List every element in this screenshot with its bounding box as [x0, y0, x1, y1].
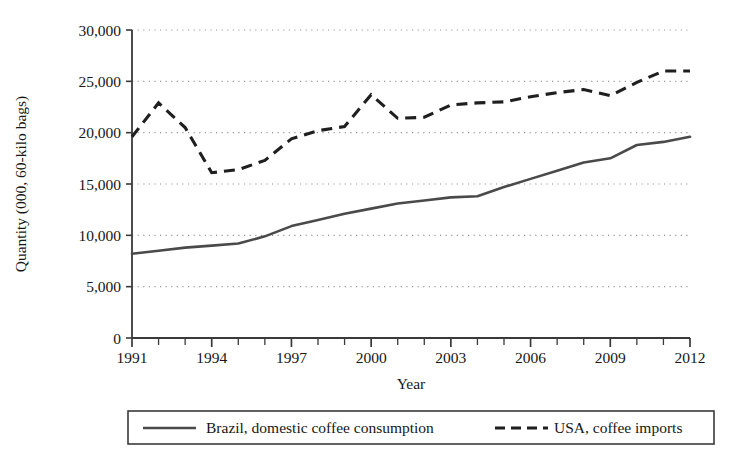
y-tick-label-5000: 5,000 [86, 278, 121, 295]
y-tick-label-0: 0 [113, 330, 121, 347]
x-tick-label-1997: 1997 [276, 349, 307, 366]
legend: Brazil, domestic coffee consumption USA,… [128, 411, 714, 444]
chart-canvas: 05,00010,00015,00020,00025,00030,000 199… [0, 0, 742, 460]
y-axis-title: Quantity (000, 60-kilo bags) [12, 96, 30, 273]
coffee-quantity-chart-figure: 05,00010,00015,00020,00025,00030,000 199… [0, 0, 742, 460]
x-tick-label-2006: 2006 [515, 349, 546, 366]
y-tick-label-25000: 25,000 [78, 73, 121, 90]
x-tick-label-1991: 1991 [117, 349, 148, 366]
y-tick-label-30000: 30,000 [78, 22, 121, 39]
y-tick-label-20000: 20,000 [78, 124, 121, 141]
y-tick-label-15000: 15,000 [78, 176, 121, 193]
x-tick-label-2000: 2000 [356, 349, 387, 366]
x-tick-label-2009: 2009 [595, 349, 626, 366]
legend-label-brazil: Brazil, domestic coffee consumption [206, 419, 434, 436]
x-tick-label-2003: 2003 [435, 349, 466, 366]
y-tick-label-10000: 10,000 [78, 227, 121, 244]
x-tick-label-2012: 2012 [675, 349, 706, 366]
legend-label-usa: USA, coffee imports [554, 419, 682, 436]
x-tick-label-1994: 1994 [196, 349, 227, 366]
x-axis-title: Year [397, 375, 426, 392]
